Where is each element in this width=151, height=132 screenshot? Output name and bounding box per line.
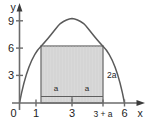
rectangle-shape xyxy=(41,46,103,103)
x-axis-label: x xyxy=(137,107,143,119)
y-tick-label-3: 3 xyxy=(8,69,14,81)
x-tick-label-6: 6 xyxy=(121,107,127,119)
parabola-rectangle-diagram: 9 6 3 0 1 3 3 + a 6 y x a a 2a xyxy=(0,0,151,132)
x-tick-label-3: 3 xyxy=(69,107,75,119)
y-axis-arrow xyxy=(17,3,23,12)
annotation-height-2a: 2a xyxy=(107,70,117,80)
y-tick-label-9: 9 xyxy=(8,15,14,27)
annotation-right-a: a xyxy=(85,84,90,93)
y-axis-label: y xyxy=(10,1,16,13)
figure-container: 9 6 3 0 1 3 3 + a 6 y x a a 2a xyxy=(0,0,151,132)
x-axis-arrow xyxy=(137,100,146,106)
origin-label: 0 xyxy=(10,107,16,119)
y-tick-label-6: 6 xyxy=(8,42,14,54)
inscribed-rectangle xyxy=(41,46,103,103)
x-tick-label-3-plus-a: 3 + a xyxy=(93,109,112,119)
annotation-left-a: a xyxy=(54,84,59,93)
x-tick-label-1: 1 xyxy=(33,107,39,119)
